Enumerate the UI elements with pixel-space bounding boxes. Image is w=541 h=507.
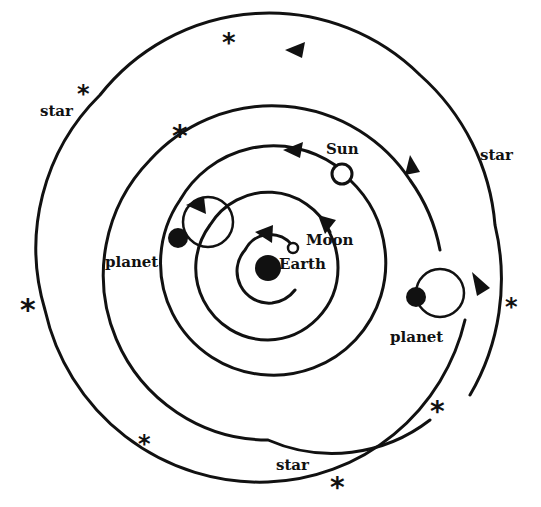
moon-body xyxy=(288,243,298,253)
arrow-icon xyxy=(472,272,490,296)
earth-label: Earth xyxy=(279,257,326,272)
star-label-bottom: star xyxy=(276,458,309,473)
star-label-right: star xyxy=(480,148,513,163)
star-icon: * xyxy=(222,30,236,56)
arrow-icon xyxy=(255,225,273,243)
arrow-icon xyxy=(285,42,305,58)
star-icon: * xyxy=(138,432,151,456)
star-label-top-left: star xyxy=(40,104,73,119)
sun-label: Sun xyxy=(326,142,359,157)
star-icon: * xyxy=(77,82,90,106)
planet-left-body xyxy=(168,228,188,248)
orbit-spiral xyxy=(0,0,541,507)
arrow-icon xyxy=(405,155,420,175)
star-icon: * xyxy=(505,295,518,319)
earth-body xyxy=(255,255,281,281)
star-icon: * xyxy=(330,474,345,502)
arrow-icon xyxy=(283,142,303,158)
diagram: Moon Earth Sun planet planet star star s… xyxy=(0,0,541,507)
planet-right-body xyxy=(406,287,426,307)
planet-label-right: planet xyxy=(390,330,443,345)
planet-label-left: planet xyxy=(105,255,158,270)
star-icon: * xyxy=(172,121,188,151)
star-icon: * xyxy=(20,295,36,325)
star-icon: * xyxy=(430,398,445,426)
sun-body xyxy=(332,164,352,184)
moon-label: Moon xyxy=(306,233,354,248)
